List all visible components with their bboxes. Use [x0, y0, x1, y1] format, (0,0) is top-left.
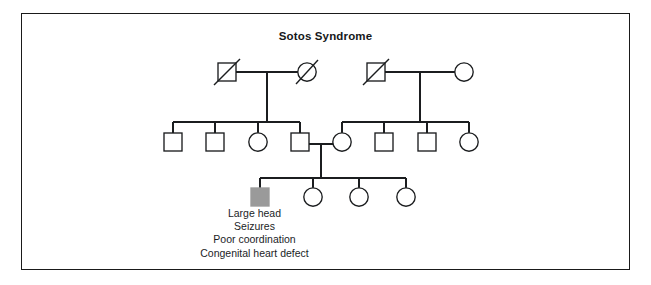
female-circle-symbol: [455, 63, 473, 81]
male-square-symbol: [206, 133, 224, 151]
male-square-symbol: [418, 133, 436, 151]
individual-I-2[interactable]: [296, 60, 318, 84]
male-square-symbol: [291, 133, 309, 151]
female-circle-symbol: [304, 188, 322, 206]
individual-III-3[interactable]: [350, 188, 368, 206]
individual-III-2[interactable]: [304, 188, 322, 206]
female-circle-symbol: [350, 188, 368, 206]
individual-II-6[interactable]: [375, 133, 393, 151]
individual-III-4[interactable]: [397, 188, 415, 206]
individual-II-5[interactable]: [333, 133, 351, 151]
male-square-symbol: [164, 133, 182, 151]
affected-male-square-symbol: [251, 188, 269, 206]
individual-I-1[interactable]: [214, 59, 240, 85]
female-circle-symbol: [333, 133, 351, 151]
pedigree-figure: Sotos Syndrome: [0, 0, 651, 285]
connector-lines: [173, 72, 469, 188]
individual-II-2[interactable]: [206, 133, 224, 151]
individual-I-3[interactable]: [363, 59, 389, 85]
female-circle-symbol: [460, 133, 478, 151]
individual-II-3[interactable]: [249, 133, 267, 151]
individual-III-1-proband[interactable]: [251, 188, 269, 206]
individual-II-7[interactable]: [418, 133, 436, 151]
pedigree-diagram: [0, 0, 651, 285]
female-circle-symbol: [249, 133, 267, 151]
individual-II-8[interactable]: [460, 133, 478, 151]
female-circle-symbol: [397, 188, 415, 206]
individual-II-1[interactable]: [164, 133, 182, 151]
individual-II-4[interactable]: [291, 133, 309, 151]
generation-3-symbols: [251, 188, 415, 206]
individual-I-4[interactable]: [455, 63, 473, 81]
male-square-symbol: [375, 133, 393, 151]
